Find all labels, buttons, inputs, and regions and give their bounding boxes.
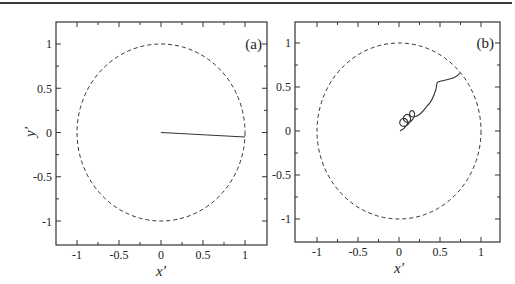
panel-a: 1 0.5 0 -0.5 -1 -1 -0.5 0 0.5 1 x′ y′ (a… — [22, 22, 267, 279]
y-tick-label: -0.5 — [272, 168, 291, 182]
x-tick-label: 0 — [396, 245, 402, 259]
panel-a-y-axis-label: y′ — [22, 126, 38, 139]
y-tick-label: 1 — [46, 37, 52, 51]
panel-a-frame — [56, 22, 267, 245]
panel-b-x-tick-labels: -1 -0.5 0 0.5 1 — [312, 245, 484, 259]
x-tick-label: -1 — [312, 245, 322, 259]
y-tick-label: -1 — [42, 215, 52, 229]
y-tick-label: 0.5 — [37, 82, 52, 96]
panel-b-frame — [295, 22, 500, 242]
panel-a-trajectory — [161, 133, 245, 138]
panel-a-ticks — [56, 22, 267, 245]
y-tick-label: -0.5 — [33, 170, 52, 184]
x-tick-label: 0.5 — [433, 245, 448, 259]
panel-b-trajectory — [400, 73, 460, 131]
y-tick-label: 0.5 — [276, 80, 291, 94]
x-tick-label: 0.5 — [196, 248, 211, 262]
y-tick-label: 1 — [285, 36, 291, 50]
x-tick-label: -0.5 — [349, 245, 368, 259]
x-tick-label: 0 — [158, 248, 164, 262]
panel-b: 1 0.5 0 -0.5 -1 -1 -0.5 0 0.5 1 x′ (b) — [272, 22, 500, 276]
panel-a-x-tick-labels: -1 -0.5 0 0.5 1 — [72, 248, 248, 262]
panel-a-label: (a) — [245, 36, 262, 53]
panel-b-ticks — [295, 22, 500, 242]
panel-b-y-tick-labels: 1 0.5 0 -0.5 -1 — [272, 36, 291, 226]
x-tick-label: -1 — [72, 248, 82, 262]
panel-b-label: (b) — [477, 35, 495, 52]
x-tick-label: 1 — [242, 248, 248, 262]
panel-b-unit-circle — [317, 43, 481, 219]
x-tick-label: -0.5 — [110, 248, 129, 262]
y-tick-label: 0 — [285, 124, 291, 138]
panel-a-x-axis-label: x′ — [155, 263, 167, 279]
y-tick-label: 0 — [46, 126, 52, 140]
panel-b-x-axis-label: x′ — [393, 260, 405, 276]
x-tick-label: 1 — [478, 245, 484, 259]
y-tick-label: -1 — [281, 212, 291, 226]
figure: 1 0.5 0 -0.5 -1 -1 -0.5 0 0.5 1 x′ y′ (a… — [0, 0, 515, 284]
